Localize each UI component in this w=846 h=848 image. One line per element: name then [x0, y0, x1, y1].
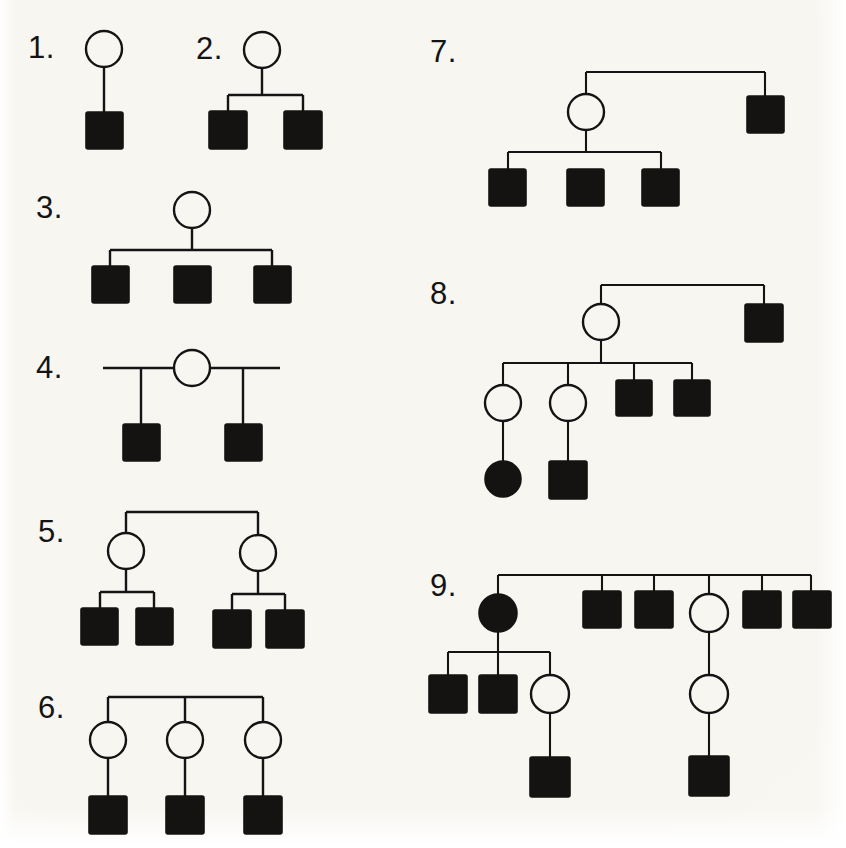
p9-i12-filled-square-icon: [689, 756, 729, 796]
p3-i1-open-circle-icon: [174, 192, 210, 228]
pedigree-2-group: [209, 32, 322, 149]
p8-i4-open-circle-icon: [550, 385, 586, 421]
p7-i1-open-circle-icon: [568, 94, 604, 130]
pedigree-1-label: 1.: [28, 32, 55, 63]
p7-i5-filled-square-icon: [642, 169, 679, 206]
p9-i3-filled-square-icon: [635, 591, 673, 628]
p9-i8-filled-square-icon: [479, 675, 517, 713]
pedigree-3-label: 3.: [36, 192, 63, 223]
p4-i1-open-circle-icon: [174, 350, 210, 386]
p9-i2-filled-square-icon: [583, 591, 621, 628]
p9-i4-open-circle-icon: [690, 594, 728, 632]
p9-i6-filled-square-icon: [793, 591, 831, 628]
p3-i3-filled-square-icon: [174, 266, 211, 303]
p9-i7-filled-square-icon: [429, 675, 467, 713]
p4-i2-filled-square-icon: [123, 424, 160, 461]
p6-i1-open-circle-icon: [90, 722, 126, 758]
p7-i4-filled-square-icon: [567, 169, 604, 206]
pedigree-3-group: [92, 192, 291, 303]
p3-i2-filled-square-icon: [92, 266, 129, 303]
pedigree-7-label: 7.: [430, 36, 457, 67]
pedigree-4-label: 4.: [36, 352, 63, 383]
p8-i6-filled-square-icon: [674, 380, 710, 416]
p6-i5-filled-square-icon: [166, 796, 204, 834]
p6-i2-open-circle-icon: [167, 722, 203, 758]
p5-i5-filled-square-icon: [213, 610, 251, 648]
p6-i6-filled-square-icon: [244, 796, 282, 834]
p2-i3-filled-square-icon: [284, 111, 322, 149]
p2-i1-open-circle-icon: [244, 32, 280, 68]
p9-i11-filled-square-icon: [530, 757, 570, 797]
pedigree-7-group: [489, 72, 784, 206]
pedigree-diagram-layer: .ln { stroke: #141414; stroke-width: 2.4…: [0, 0, 846, 848]
p7-i3-filled-square-icon: [489, 169, 526, 206]
p9-i5-filled-square-icon: [743, 591, 781, 628]
pedigree-4-group: [103, 350, 280, 461]
p5-i4-filled-square-icon: [136, 608, 173, 645]
pedigree-9-group: [429, 575, 831, 797]
p8-i7-filled-circle-icon: [485, 461, 521, 497]
p8-i8-filled-square-icon: [549, 461, 587, 499]
p4-i3-filled-square-icon: [225, 424, 262, 461]
p6-i3-open-circle-icon: [245, 722, 281, 758]
pedigree-6-group: [89, 697, 282, 834]
pedigree-8-group: [485, 285, 783, 499]
pedigree-2-label: 2.: [196, 33, 223, 64]
p9-i9-open-circle-icon: [531, 675, 569, 713]
p5-i3-filled-square-icon: [81, 608, 118, 645]
pedigree-8-label: 8.: [430, 278, 457, 309]
p5-i2-open-circle-icon: [240, 535, 276, 571]
p5-i6-filled-square-icon: [266, 610, 304, 648]
pedigree-9-label: 9.: [430, 570, 457, 601]
p2-i2-filled-square-icon: [209, 111, 247, 149]
p1-i1-open-circle-icon: [86, 31, 122, 67]
p9-i10-open-circle-icon: [690, 675, 728, 713]
p8-i3-open-circle-icon: [485, 385, 521, 421]
p3-i4-filled-square-icon: [254, 266, 291, 303]
pedigree-5-label: 5.: [38, 516, 65, 547]
p8-i2-filled-square-icon: [745, 304, 783, 342]
p6-i4-filled-square-icon: [89, 796, 127, 834]
p8-i1-open-circle-icon: [583, 304, 619, 340]
p1-i2-filled-square-icon: [86, 112, 123, 149]
pedigree-worksheet-page: .ln { stroke: #141414; stroke-width: 2.4…: [0, 0, 846, 848]
pedigree-6-label: 6.: [38, 692, 65, 723]
p5-i1-open-circle-icon: [108, 533, 144, 569]
pedigree-1-group: [86, 31, 123, 149]
pedigree-5-group: [81, 512, 304, 648]
p9-i1-filled-circle-icon: [479, 594, 517, 632]
p7-i2-filled-square-icon: [747, 96, 784, 133]
p8-i5-filled-square-icon: [616, 380, 652, 416]
